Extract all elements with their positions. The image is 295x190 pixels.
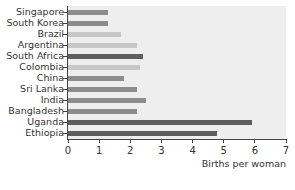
bar (68, 131, 217, 136)
x-tick (286, 140, 287, 143)
category-label: South Korea (6, 17, 64, 28)
y-tick (63, 89, 67, 90)
category-label: Bangladesh (8, 105, 64, 116)
x-tick-label: 5 (221, 145, 227, 156)
x-tick (130, 140, 131, 143)
x-axis-title: Births per woman (202, 158, 286, 169)
bar (68, 120, 252, 125)
y-tick (63, 23, 67, 24)
x-tick-label: 3 (158, 145, 164, 156)
y-tick (63, 100, 67, 101)
bar-row: Ethiopia (0, 128, 295, 139)
x-tick (99, 140, 100, 143)
bar (68, 32, 121, 37)
x-tick (68, 140, 69, 143)
bar (68, 109, 137, 114)
y-tick (63, 56, 67, 57)
x-tick (223, 140, 224, 143)
category-label: India (41, 94, 64, 105)
y-tick (63, 111, 67, 112)
bar (68, 43, 137, 48)
bar (68, 21, 108, 26)
category-label: Ethiopia (25, 127, 64, 138)
bar (68, 98, 146, 103)
bar (68, 54, 143, 59)
x-tick (161, 140, 162, 143)
y-tick (63, 78, 67, 79)
y-tick (63, 133, 67, 134)
bar (68, 65, 140, 70)
y-tick (63, 45, 67, 46)
x-tick-label: 6 (252, 145, 258, 156)
x-tick-label: 4 (189, 145, 195, 156)
y-tick (63, 67, 67, 68)
category-label: China (37, 72, 64, 83)
category-label: South Africa (6, 50, 64, 61)
y-tick (63, 12, 67, 13)
x-tick (254, 140, 255, 143)
category-label: Brazil (37, 28, 64, 39)
y-tick (63, 122, 67, 123)
category-label: Singapore (16, 6, 64, 17)
category-label: Sri Lanka (20, 83, 64, 94)
y-tick (63, 34, 67, 35)
x-tick-label: 0 (65, 145, 71, 156)
category-label: Colombia (19, 61, 64, 72)
bar (68, 87, 137, 92)
bar (68, 76, 124, 81)
x-tick-label: 1 (96, 145, 102, 156)
x-tick-label: 7 (283, 145, 289, 156)
x-tick (192, 140, 193, 143)
category-label: Argentina (18, 39, 64, 50)
bar (68, 10, 108, 15)
x-tick-label: 2 (127, 145, 133, 156)
category-label: Uganda (27, 116, 64, 127)
